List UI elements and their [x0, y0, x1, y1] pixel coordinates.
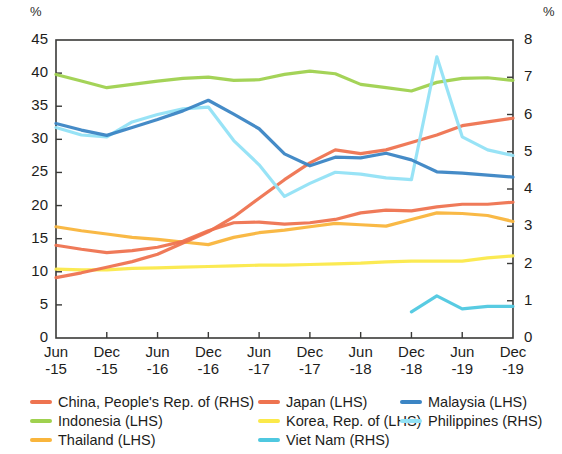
- legend-item[interactable]: Indonesia (LHS): [30, 411, 254, 430]
- legend-color-swatch: [400, 400, 422, 404]
- legend-color-swatch: [30, 400, 52, 404]
- chart-legend: China, People's Rep. of (RHS)Indonesia (…: [0, 392, 562, 454]
- legend-item[interactable]: Malaysia (LHS): [400, 392, 542, 411]
- legend-color-swatch: [30, 438, 52, 442]
- legend-label: Philippines (RHS): [428, 413, 542, 429]
- legend-item[interactable]: Viet Nam (RHS): [258, 430, 421, 449]
- legend-label: China, People's Rep. of (RHS): [58, 394, 254, 410]
- legend-color-swatch: [400, 419, 422, 423]
- legend-color-swatch: [258, 438, 280, 442]
- legend-column-1: China, People's Rep. of (RHS)Indonesia (…: [30, 392, 254, 449]
- series-line-malaysia-lhs: [56, 100, 513, 177]
- legend-item[interactable]: China, People's Rep. of (RHS): [30, 392, 254, 411]
- legend-label: Indonesia (LHS): [58, 413, 163, 429]
- chart-figure: % % 454035302520151050 876543210 Jun-15D…: [0, 0, 562, 454]
- series-line-viet-nam-rhs: [411, 296, 513, 312]
- legend-color-swatch: [258, 400, 280, 404]
- series-line-japan-lhs: [56, 202, 513, 252]
- legend-color-swatch: [258, 419, 280, 423]
- legend-label: Malaysia (LHS): [428, 394, 527, 410]
- legend-column-2: Japan (LHS)Korea, Rep. of (LHS)Viet Nam …: [258, 392, 421, 449]
- series-line-thailand-lhs: [56, 213, 513, 245]
- legend-label: Japan (LHS): [286, 394, 367, 410]
- legend-column-3: Malaysia (LHS)Philippines (RHS): [400, 392, 542, 430]
- series-line-philippines-rhs: [56, 57, 513, 197]
- series-lines: [56, 57, 513, 312]
- legend-label: Thailand (LHS): [58, 432, 156, 448]
- legend-item[interactable]: Thailand (LHS): [30, 430, 254, 449]
- legend-label: Viet Nam (RHS): [286, 432, 390, 448]
- legend-color-swatch: [30, 419, 52, 423]
- legend-item[interactable]: Japan (LHS): [258, 392, 421, 411]
- plot-area: [0, 0, 562, 400]
- legend-item[interactable]: Philippines (RHS): [400, 411, 542, 430]
- legend-item[interactable]: Korea, Rep. of (LHS): [258, 411, 421, 430]
